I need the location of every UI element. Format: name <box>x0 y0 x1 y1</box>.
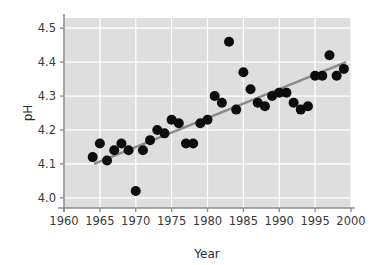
scatter-point <box>95 139 105 149</box>
scatter-point <box>138 145 148 155</box>
scatter-point <box>124 145 134 155</box>
scatter-point <box>260 101 270 111</box>
y-axis-tick-label: 4.5 <box>38 21 56 35</box>
scatter-point <box>231 105 241 115</box>
scatter-point <box>339 64 349 74</box>
y-axis-tick-label: 4.4 <box>38 55 56 69</box>
scatter-point <box>203 115 213 125</box>
x-axis-tick-label: 1970 <box>121 214 150 228</box>
scatter-point <box>317 71 327 81</box>
y-axis-tick-label: 4.0 <box>38 191 56 205</box>
x-axis-title: Year <box>193 247 219 261</box>
x-axis-tick-label: 1995 <box>300 214 329 228</box>
scatter-point <box>303 101 313 111</box>
scatter-point <box>281 88 291 98</box>
x-axis-tick-label: 1975 <box>157 214 186 228</box>
x-axis-tick-label: 1960 <box>49 214 78 228</box>
scatter-point <box>159 128 169 138</box>
chart-figure: 4.04.14.24.34.44.51960196519701975198019… <box>0 0 375 265</box>
x-axis-tick-label: 1965 <box>85 214 114 228</box>
scatter-point <box>217 98 227 108</box>
scatter-point <box>324 50 334 60</box>
x-axis-tick-label: 2000 <box>336 214 365 228</box>
scatter-point <box>145 135 155 145</box>
y-axis-tick-label: 4.2 <box>38 123 56 137</box>
scatter-point <box>246 84 256 94</box>
x-axis-tick-label: 1990 <box>265 214 294 228</box>
scatter-point <box>224 37 234 47</box>
scatter-point <box>88 152 98 162</box>
x-axis-tick-label: 1985 <box>229 214 258 228</box>
scatter-point <box>174 118 184 128</box>
x-axis-tick-label: 1980 <box>193 214 222 228</box>
scatter-point <box>102 156 112 166</box>
y-axis-tick-label: 4.1 <box>38 157 56 171</box>
scatter-plot: 4.04.14.24.34.44.51960196519701975198019… <box>0 0 375 265</box>
scatter-point <box>238 67 248 77</box>
scatter-point <box>131 186 141 196</box>
scatter-point <box>188 139 198 149</box>
y-axis-title: pH <box>21 105 35 122</box>
y-axis-tick-label: 4.3 <box>38 89 56 103</box>
